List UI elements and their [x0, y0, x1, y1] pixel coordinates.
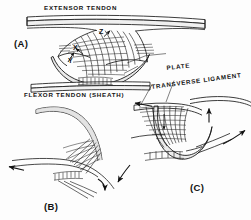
- panel-c-lower-contours: [131, 133, 232, 152]
- panel-c-group: [118, 97, 251, 182]
- panel-b-lower-strands: [58, 181, 97, 199]
- label-extensor-tendon: EXTENSOR TENDON: [44, 5, 117, 11]
- panel-label-c: (C): [190, 183, 204, 193]
- arrow-left-icon: [9, 167, 24, 171]
- extensor-tendon-band: [27, 15, 205, 28]
- diagram-canvas: [0, 0, 251, 220]
- panel-b-arrows: [9, 167, 105, 191]
- arrow-down-left-icon: [118, 165, 130, 182]
- arrow-up-right-icon: [223, 130, 245, 144]
- panel-label-b: (B): [44, 202, 58, 212]
- leader-lines-a: [124, 54, 174, 105]
- vector-label-z: Z: [99, 28, 103, 35]
- vector-label-y: Y: [68, 57, 73, 64]
- panel-c-arrows: [118, 103, 245, 182]
- panel-b-group: [9, 107, 114, 198]
- vector-label-x: X: [73, 44, 78, 51]
- panel-c-upper-band: [190, 97, 251, 107]
- arrow-down-right-icon: [98, 179, 105, 190]
- panel-c-hatching: [139, 106, 186, 139]
- panel-c-fiber-bundle: [146, 106, 188, 148]
- arrow-z-icon: [104, 31, 110, 37]
- panel-label-a: (A): [14, 39, 28, 49]
- label-flexor-tendon: FLEXOR TENDON (SHEATH): [24, 92, 124, 98]
- panel-b-sheath-hatching: [53, 171, 83, 180]
- anatomical-figure: EXTENSOR TENDON PLATE FLEXOR TENDON (SHE…: [0, 0, 251, 220]
- extensor-lower-contour: [27, 27, 205, 31]
